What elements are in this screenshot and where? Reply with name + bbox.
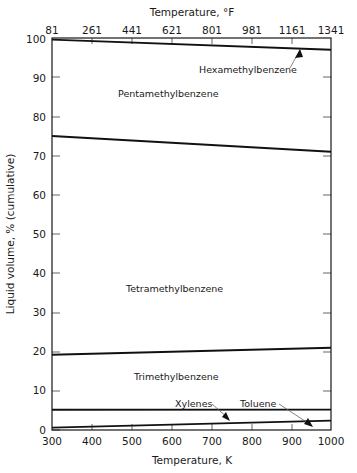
curve-xylenes-boundary bbox=[52, 421, 331, 428]
bottom-tick-label: 900 bbox=[282, 435, 302, 447]
y-tick-label: 100 bbox=[26, 33, 46, 45]
bottom-tick-label: 800 bbox=[242, 435, 262, 447]
series-label-trimethylbenzene: Trimethylbenzene bbox=[133, 371, 219, 382]
y-tick-label: 80 bbox=[33, 111, 46, 123]
top-tick-label: 1341 bbox=[318, 24, 345, 36]
top-tick-label: 81 bbox=[45, 24, 58, 36]
top-tick-label: 441 bbox=[122, 24, 142, 36]
top-tick-label: 1161 bbox=[279, 24, 306, 36]
top-tick-label: 621 bbox=[162, 24, 182, 36]
top-tick-label: 261 bbox=[82, 24, 102, 36]
y-tick-label: 60 bbox=[33, 189, 46, 201]
bottom-tick-label: 600 bbox=[162, 435, 182, 447]
series-label-pentamethylbenzene: Pentamethylbenzene bbox=[118, 88, 219, 99]
y-tick-label: 10 bbox=[33, 384, 46, 396]
arrow-head-toluene bbox=[304, 418, 313, 427]
y-tick-label: 70 bbox=[33, 150, 46, 162]
series-label-tetramethylbenzene: Tetramethylbenzene bbox=[125, 283, 223, 294]
y-tick-label: 90 bbox=[33, 72, 46, 84]
bottom-tick-label: 300 bbox=[42, 435, 62, 447]
curve-pentamethylbenzene-boundary bbox=[52, 136, 331, 152]
bottom-tick-label: 1000 bbox=[318, 435, 345, 447]
top-tick-label: 981 bbox=[242, 24, 262, 36]
series-label-hexamethylbenzene: Hexamethylbenzene bbox=[199, 64, 297, 75]
curve-tetramethylbenzene-boundary bbox=[52, 348, 331, 355]
curve-hexamethylbenzene-boundary bbox=[52, 40, 331, 50]
bottom-axis-title: Temperature, K bbox=[151, 454, 233, 466]
chart-figure: Temperature, °F 81 261 441 621 801 981 1… bbox=[0, 0, 357, 473]
liquid-volume-vs-temperature-chart: Temperature, °F 81 261 441 621 801 981 1… bbox=[0, 0, 357, 473]
y-tick-label: 50 bbox=[33, 228, 46, 240]
y-tick-label: 40 bbox=[33, 267, 46, 279]
arrow-head-hexamethylbenzene bbox=[295, 49, 303, 58]
top-axis-title: Temperature, °F bbox=[149, 6, 234, 18]
y-axis-ticks bbox=[52, 77, 60, 430]
y-axis-tick-labels: 0 10 20 30 40 50 60 70 80 90 100 bbox=[26, 33, 46, 436]
bottom-tick-label: 500 bbox=[122, 435, 142, 447]
series-label-toluene: Toluene bbox=[239, 398, 277, 409]
top-axis-tick-labels: 81 261 441 621 801 981 1161 1341 bbox=[45, 24, 344, 36]
bottom-tick-label: 400 bbox=[82, 435, 102, 447]
y-axis-title: Liquid volume, % (cumulative) bbox=[4, 154, 16, 314]
y-tick-label: 30 bbox=[33, 306, 46, 318]
top-tick-label: 801 bbox=[202, 24, 222, 36]
y-tick-label: 20 bbox=[33, 345, 46, 357]
bottom-tick-label: 700 bbox=[202, 435, 222, 447]
series-label-xylenes: Xylenes bbox=[175, 398, 212, 409]
right-axis-ticks bbox=[323, 77, 331, 391]
bottom-axis-tick-labels: 300 400 500 600 700 800 900 1000 bbox=[42, 435, 344, 447]
